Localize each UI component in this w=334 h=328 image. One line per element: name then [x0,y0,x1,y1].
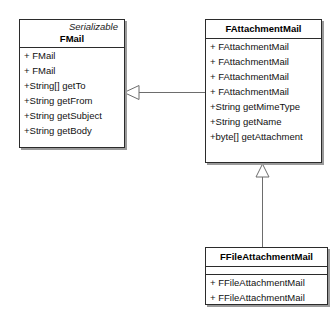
class-name-fattachmentmail: FAttachmentMail [206,20,321,38]
class-member[interactable]: +String getFrom [20,93,124,108]
class-member[interactable]: + FFileAttachmentMail [206,275,327,290]
class-member[interactable]: +String getBody [20,123,124,138]
generalization-line-vertical[interactable] [262,176,263,247]
generalization-line-horizontal[interactable] [138,92,206,93]
class-member[interactable]: +String[] getTo [20,78,124,93]
class-stereotype-serializable: Serializable [20,20,124,33]
members-compartment-fattachmentmail: + FAttachmentMail + FAttachmentMail + FA… [206,38,321,144]
class-name-ffileattachmentmail: FFileAttachmentMail [206,248,327,266]
class-box-fmail[interactable]: Serializable FMail + FMail + FMail +Stri… [19,19,125,148]
class-member[interactable]: + FMail [20,48,124,63]
class-member[interactable]: +String getName [206,114,321,129]
members-compartment-fmail: + FMail + FMail +String[] getTo +String … [20,47,124,138]
class-member[interactable]: + FFileAttachmentMail [206,290,327,305]
attributes-compartment-ffileattachmentmail [206,266,327,274]
diagram-canvas: Serializable FMail + FMail + FMail +Stri… [0,0,334,328]
class-member[interactable]: + FAttachmentMail [206,69,321,84]
class-member[interactable]: + FAttachmentMail [206,84,321,99]
class-member[interactable]: +String getMimeType [206,99,321,114]
class-box-fattachmentmail[interactable]: FAttachmentMail + FAttachmentMail + FAtt… [205,19,322,163]
class-member[interactable]: + FMail [20,63,124,78]
class-member[interactable]: + FAttachmentMail [206,54,321,69]
class-member[interactable]: + FAttachmentMail [206,39,321,54]
hollow-triangle-arrowhead-up[interactable] [254,163,271,178]
class-member[interactable]: +String getSubject [20,108,124,123]
members-compartment-ffileattachmentmail: + FFileAttachmentMail + FFileAttachmentM… [206,274,327,305]
class-box-ffileattachmentmail[interactable]: FFileAttachmentMail + FFileAttachmentMai… [205,247,328,305]
class-name-fmail: FMail [20,33,124,47]
hollow-triangle-arrowhead-left[interactable] [123,84,140,101]
class-member[interactable]: +byte[] getAttachment [206,129,321,144]
